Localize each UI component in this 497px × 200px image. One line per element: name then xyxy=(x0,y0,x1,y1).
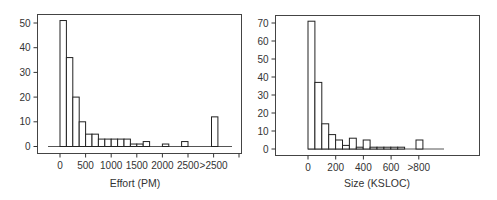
x-tick-label: >800 xyxy=(408,162,431,173)
histogram-bar xyxy=(356,147,363,149)
histogram-bar xyxy=(162,144,168,146)
y-tick-label: 10 xyxy=(19,116,31,127)
y-tick-label: 10 xyxy=(257,126,269,137)
histogram-bar xyxy=(124,139,130,146)
histogram-bar xyxy=(336,140,343,149)
histogram-bar xyxy=(86,134,92,146)
histogram-bar xyxy=(98,139,104,146)
y-tick-label: 0 xyxy=(25,141,31,152)
histogram-bar xyxy=(105,139,111,146)
x-tick-label: 0 xyxy=(57,160,63,171)
histogram-bar xyxy=(60,21,66,147)
histogram-bar xyxy=(398,147,405,149)
histogram-bar xyxy=(370,147,377,149)
y-tick-label: 50 xyxy=(257,54,269,65)
x-tick-label: 2000 xyxy=(151,160,174,171)
histograms-figure: 0102030405005001000150020002500>2500Effo… xyxy=(0,0,497,200)
histogram-bar xyxy=(212,117,218,147)
histogram-bar xyxy=(143,142,149,147)
histogram-bar xyxy=(315,82,322,149)
y-tick-label: 50 xyxy=(19,18,31,29)
x-tick-label: 200 xyxy=(327,162,344,173)
x-tick-label: 600 xyxy=(383,162,400,173)
x-axis-label: Effort (PM) xyxy=(110,177,161,189)
histogram-bar xyxy=(92,134,98,146)
y-tick-label: 30 xyxy=(257,90,269,101)
x-tick-label: 400 xyxy=(355,162,372,173)
y-tick-label: 60 xyxy=(257,36,269,47)
histogram-bar xyxy=(322,124,329,149)
histogram-bar xyxy=(308,21,315,149)
x-axis-label: Size (KSLOC) xyxy=(344,177,410,189)
y-tick-label: 30 xyxy=(19,67,31,78)
histogram-bar xyxy=(384,147,391,149)
histogram-bar xyxy=(118,139,124,146)
x-tick-label: 500 xyxy=(77,160,94,171)
y-tick-label: 40 xyxy=(19,42,31,53)
x-tick-label: 0 xyxy=(305,162,311,173)
histogram-bar xyxy=(79,122,85,147)
histogram-bar xyxy=(137,144,143,146)
x-tick-label: 1000 xyxy=(100,160,123,171)
histogram-bar xyxy=(416,140,423,149)
histogram-bar xyxy=(349,138,356,149)
y-tick-label: 20 xyxy=(19,92,31,103)
y-tick-label: 0 xyxy=(263,144,269,155)
size-histogram: 0102030405060700200400600>800Size (KSLOC… xyxy=(257,16,479,190)
histogram-bar xyxy=(111,139,117,146)
histogram-bar xyxy=(66,58,72,147)
histogram-bar xyxy=(73,97,79,146)
x-tick-label: >2500 xyxy=(200,160,229,171)
histogram-bar xyxy=(377,147,384,149)
x-tick-label: 2500 xyxy=(177,160,200,171)
histogram-bar xyxy=(363,140,370,149)
histogram-bar xyxy=(182,142,188,147)
y-tick-label: 40 xyxy=(257,72,269,83)
y-tick-label: 70 xyxy=(257,18,269,29)
x-tick-label: 1500 xyxy=(126,160,149,171)
histogram-bar xyxy=(343,145,350,149)
histogram-bar xyxy=(329,135,336,149)
plot-frame xyxy=(276,16,480,156)
histogram-bar xyxy=(391,147,398,149)
effort-histogram: 0102030405005001000150020002500>2500Effo… xyxy=(19,15,241,190)
y-tick-label: 20 xyxy=(257,108,269,119)
histogram-bar xyxy=(130,144,136,146)
